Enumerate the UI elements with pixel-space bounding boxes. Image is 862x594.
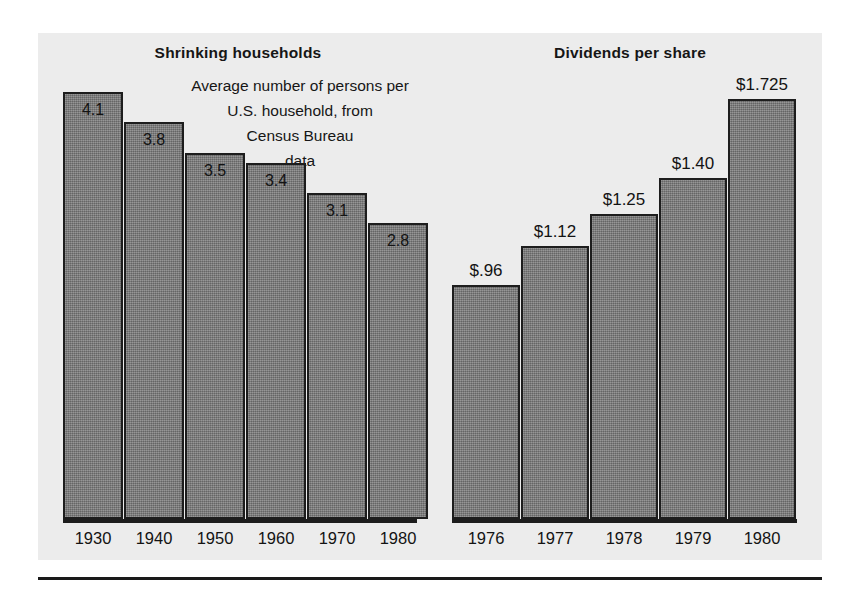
bar-value-1970: 3.1 [309, 202, 365, 220]
bar-value-1978: $1.25 [590, 190, 658, 210]
bar-1970[interactable]: 3.1 [307, 193, 367, 519]
bar-1930[interactable]: 4.1 [63, 92, 123, 519]
x-tick-1980: 1980 [368, 529, 428, 548]
x-tick-1978: 1978 [590, 529, 658, 548]
x-tick-1977: 1977 [521, 529, 589, 548]
bar-1978[interactable] [590, 214, 658, 519]
bar-1980[interactable] [728, 99, 796, 519]
bar-value-1980: $1.725 [724, 75, 800, 95]
chart-left-plot-area: 4.1 3.8 3.5 3.4 3.1 2.8 [38, 33, 438, 523]
chart-right-plot-area: $.96 $1.12 $1.25 $1.40 $1.725 [438, 33, 822, 523]
chart-shrinking-households: Shrinking households Average number of p… [38, 33, 438, 560]
bar-value-1950: 3.5 [187, 162, 243, 180]
x-tick-1960: 1960 [246, 529, 306, 548]
x-tick-1930: 1930 [63, 529, 123, 548]
bar-value-1930: 4.1 [65, 101, 121, 119]
bar-1940[interactable]: 3.8 [124, 122, 184, 519]
x-tick-1979: 1979 [659, 529, 727, 548]
x-tick-1976: 1976 [452, 529, 520, 548]
bar-1979[interactable] [659, 178, 727, 519]
bar-value-1979: $1.40 [659, 154, 727, 174]
bar-value-1960: 3.4 [248, 172, 304, 190]
bar-1950[interactable]: 3.5 [185, 153, 245, 519]
x-tick-1940: 1940 [124, 529, 184, 548]
chart-dividends-per-share: Dividends per share $.96 $1.12 $1.25 $1.… [438, 33, 822, 560]
bar-1980[interactable]: 2.8 [368, 223, 428, 519]
chart-right-axis-line [452, 519, 797, 523]
x-tick-1980: 1980 [728, 529, 796, 548]
bar-value-1940: 3.8 [126, 131, 182, 149]
x-tick-1970: 1970 [307, 529, 367, 548]
x-tick-1950: 1950 [185, 529, 245, 548]
bar-value-1977: $1.12 [521, 222, 589, 242]
bar-1960[interactable]: 3.4 [246, 163, 306, 519]
chart-left-axis-line [63, 519, 417, 523]
bar-value-1980: 2.8 [370, 232, 426, 250]
bar-1976[interactable] [452, 285, 520, 519]
figure-container: Shrinking households Average number of p… [0, 0, 862, 594]
bottom-divider-rule [38, 577, 822, 580]
bar-value-1976: $.96 [452, 261, 520, 281]
bar-1977[interactable] [521, 246, 589, 519]
